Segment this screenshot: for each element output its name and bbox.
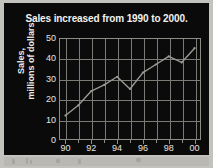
y-axis-tick-labels: 01020304050 — [30, 38, 56, 140]
x-axis-tick-label: 00 — [183, 144, 207, 153]
y-axis-tick-label: 10 — [34, 116, 56, 125]
y-axis-tick-label: 20 — [34, 95, 56, 104]
x-axis-tick-minor — [78, 140, 79, 143]
scan-artifact-mark — [26, 158, 28, 164]
x-axis-tick-label: 94 — [105, 144, 129, 153]
data-point-marker — [90, 90, 92, 92]
data-point-marker — [103, 84, 105, 86]
x-axis-tick-label: 96 — [131, 144, 155, 153]
scan-artifact-mark — [78, 159, 81, 164]
scan-artifact-mark — [136, 158, 141, 162]
data-point-marker — [155, 63, 157, 65]
y-axis-tick-label: 30 — [34, 75, 56, 84]
data-point-marker — [77, 104, 79, 106]
scan-artifact-mark — [56, 159, 60, 163]
x-axis-tick-labels: 909294969800 — [59, 144, 201, 155]
data-point-marker — [168, 55, 170, 57]
x-axis-tick-minor — [104, 140, 105, 143]
scan-artifact-strip — [4, 157, 209, 166]
x-axis-tick-minor — [182, 140, 183, 143]
sales-line — [65, 48, 194, 115]
y-axis-tick-label: 50 — [34, 34, 56, 43]
series-line-sales — [59, 38, 201, 140]
scan-artifact-mark — [12, 159, 15, 164]
y-axis-title-line1: Sales, — [16, 13, 26, 109]
x-axis-tick-label: 90 — [53, 144, 77, 153]
data-point-marker — [142, 72, 144, 74]
figure-container: Sales increased from 1990 to 2000. Sales… — [0, 0, 213, 168]
data-point-marker — [193, 47, 195, 49]
data-point-marker — [129, 88, 131, 90]
data-point-marker — [64, 114, 66, 116]
data-point-marker — [181, 61, 183, 63]
data-point-marker — [116, 76, 118, 78]
x-axis-tick-minor — [130, 140, 131, 143]
x-axis-tick-minor — [156, 140, 157, 143]
chart-plate: Sales increased from 1990 to 2000. Sales… — [4, 3, 209, 155]
scan-artifact-mark — [30, 160, 32, 164]
y-axis-tick-label: 40 — [34, 54, 56, 63]
x-axis-tick-label: 92 — [79, 144, 103, 153]
x-axis-tick-label: 98 — [157, 144, 181, 153]
